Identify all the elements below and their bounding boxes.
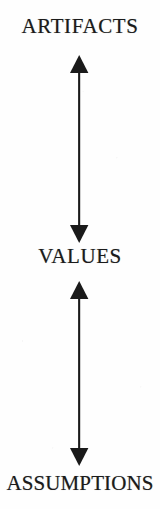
arrowhead-down-toward-values (70, 225, 88, 243)
level-label-assumptions: ASSUMPTIONS (0, 471, 160, 496)
arrowhead-up-toward-artifacts (70, 55, 88, 73)
level-label-values: VALUES (0, 244, 160, 269)
diagram-canvas: ARTIFACTS VALUES ASSUMPTIONS (0, 0, 160, 509)
arrowhead-up-toward-values (70, 281, 88, 299)
arrow-stem-upper (78, 68, 80, 233)
arrowhead-down-toward-assumptions (70, 448, 88, 466)
double-headed-vertical-arrow-values-assumptions (70, 281, 88, 466)
level-label-artifacts: ARTIFACTS (0, 14, 160, 39)
double-headed-vertical-arrow-artifacts-values (70, 55, 88, 243)
arrow-stem-lower (78, 294, 80, 456)
